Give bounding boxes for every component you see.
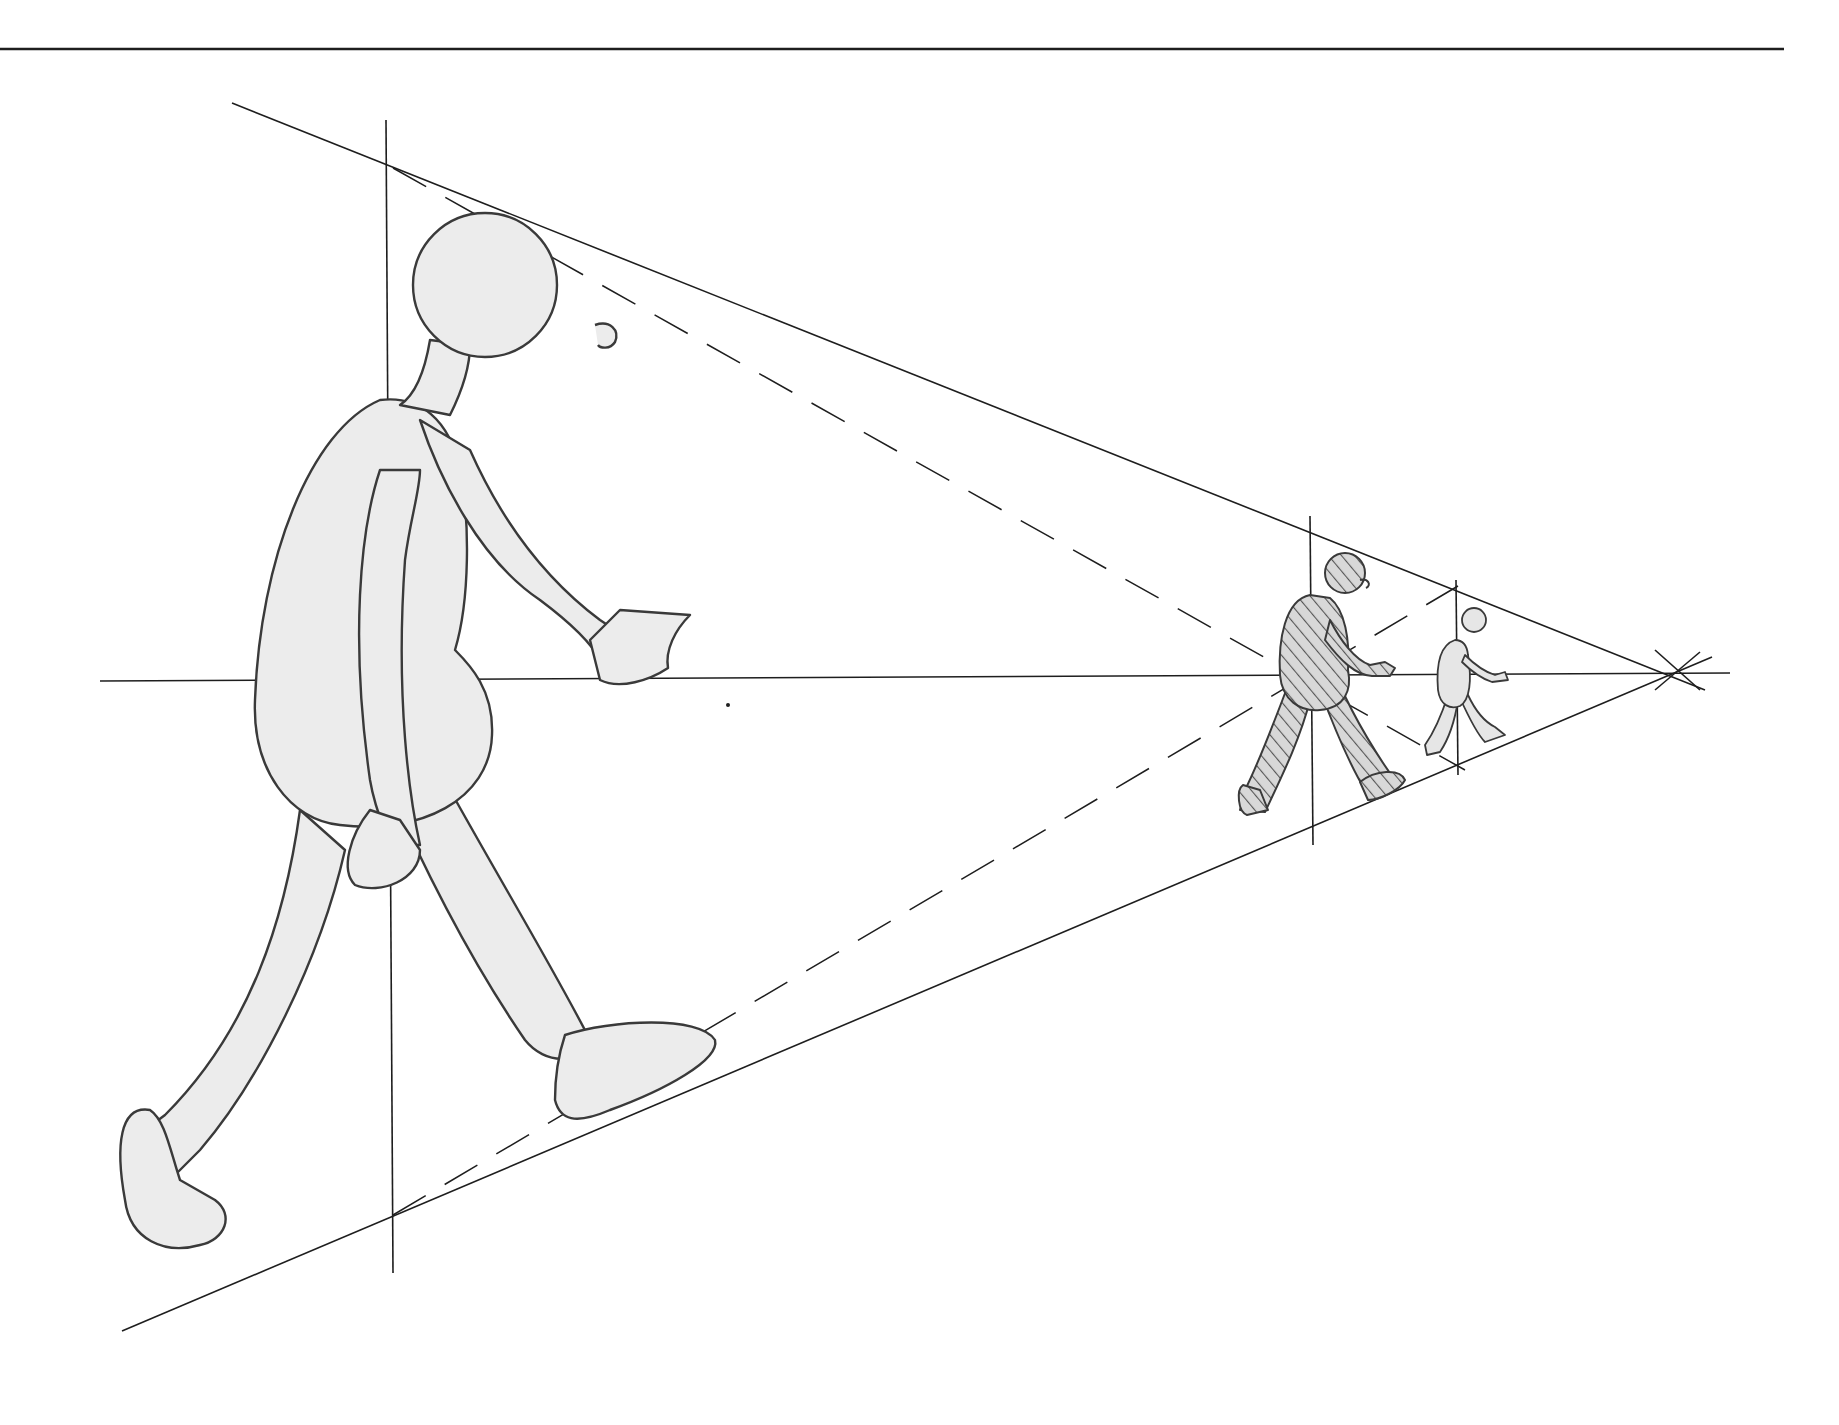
large-foreground-figure	[120, 213, 715, 1248]
vanishing-point	[1655, 650, 1700, 690]
medium-figure	[1239, 553, 1405, 815]
perspective-diagram	[0, 0, 1839, 1425]
small-figure	[1425, 608, 1508, 755]
stray-mark	[726, 703, 730, 707]
